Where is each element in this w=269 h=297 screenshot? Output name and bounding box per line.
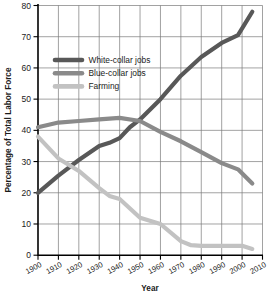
x-tick-label: 2000	[228, 260, 247, 276]
x-tick-label: 1960	[146, 260, 165, 276]
chart-container: 01020304050607080 1900191019201930194019…	[0, 0, 269, 297]
x-tick-label: 1920	[65, 260, 84, 276]
line-chart: 01020304050607080 1900191019201930194019…	[0, 0, 269, 297]
y-axis-title: Percentage of Total Labor Force	[4, 67, 13, 192]
x-tick-label: 1900	[24, 260, 43, 276]
legend-label-white-collar-jobs: White-collar jobs	[89, 55, 151, 65]
x-tick-label: 1910	[44, 260, 63, 276]
y-tick-label: 50	[22, 94, 32, 104]
x-axis-title: Year	[141, 284, 159, 293]
y-axis-tick-labels: 01020304050607080	[22, 1, 32, 261]
x-tick-label: 1990	[208, 260, 227, 276]
y-tick-label: 40	[22, 125, 32, 135]
legend-label-farming: Farming	[89, 81, 120, 91]
x-tick-label: 2010	[248, 260, 267, 276]
series-line-blue-collar-jobs	[38, 118, 252, 184]
x-tick-label: 1940	[106, 260, 125, 276]
x-tick-label: 1930	[85, 260, 104, 276]
y-tick-label: 10	[22, 219, 32, 229]
x-axis-tick-labels: 1900191019201930194019501960197019801990…	[24, 260, 268, 276]
y-tick-label: 0	[26, 250, 31, 260]
y-tick-label: 30	[22, 157, 32, 167]
chart-legend: White-collar jobsBlue-collar jobsFarming	[55, 55, 150, 91]
x-tick-label: 1980	[187, 260, 206, 276]
x-tick-label: 1950	[126, 260, 145, 276]
y-tick-label: 20	[22, 188, 32, 198]
y-tick-label: 60	[22, 63, 32, 73]
y-tick-label: 80	[22, 1, 32, 11]
legend-label-blue-collar-jobs: Blue-collar jobs	[89, 68, 146, 78]
x-tick-label: 1970	[167, 260, 186, 276]
y-tick-label: 70	[22, 32, 32, 42]
